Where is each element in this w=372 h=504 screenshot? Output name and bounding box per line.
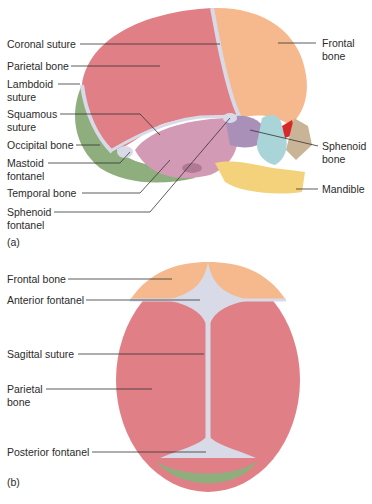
panel-tag-a: (a): [7, 236, 20, 248]
label-anterior-fontanel: Anterior fontanel: [7, 294, 84, 307]
mandible: [215, 162, 305, 194]
label-line1: Frontal: [322, 37, 355, 49]
label-posterior-fontanel: Posterior fontanel: [7, 446, 89, 459]
label-frontal-bone-b: Frontal bone: [7, 273, 66, 286]
fetal-skull-figure: [0, 0, 372, 504]
label-line2: bone: [322, 50, 345, 62]
label-temporal-bone: Temporal bone: [7, 187, 76, 200]
label-sphenoid-bone: Sphenoidbone: [322, 140, 366, 165]
ear-canal: [182, 163, 202, 173]
label-line1: Sphenoid: [322, 140, 366, 152]
label-line1: Lambdoid: [7, 78, 53, 90]
label-sphenoid-fontanel: Sphenoidfontanel: [7, 206, 51, 231]
label-squamous-suture: Squamoussuture: [7, 108, 57, 133]
lateral-skull: [75, 8, 312, 194]
label-mastoid-fontanel: Mastoidfontanel: [7, 157, 44, 182]
panel-tag-b: (b): [7, 476, 20, 488]
label-parietal-bone-b: Parietalbone: [7, 383, 43, 408]
label-line1: Sphenoid: [7, 206, 51, 218]
label-line2: bone: [7, 396, 30, 408]
label-occipital-bone: Occipital bone: [7, 139, 74, 152]
mastoid-fontanel: [117, 146, 133, 158]
label-line2: fontanel: [7, 219, 44, 231]
label-line1: Mastoid: [7, 157, 44, 169]
label-line2: suture: [7, 121, 36, 133]
label-frontal-bone: Frontalbone: [322, 37, 355, 62]
label-line2: fontanel: [7, 170, 44, 182]
label-line2: bone: [322, 153, 345, 165]
label-sagittal-suture: Sagittal suture: [7, 348, 74, 361]
label-line1: Parietal: [7, 383, 43, 395]
label-lambdoid-suture: Lambdoidsuture: [7, 78, 53, 103]
label-coronal-suture: Coronal suture: [7, 38, 76, 51]
label-mandible: Mandible: [322, 183, 365, 196]
label-line2: suture: [7, 91, 36, 103]
maxilla: [257, 115, 287, 165]
label-line1: Squamous: [7, 108, 57, 120]
superior-skull: [116, 262, 300, 492]
label-parietal-bone: Parietal bone: [7, 60, 69, 73]
